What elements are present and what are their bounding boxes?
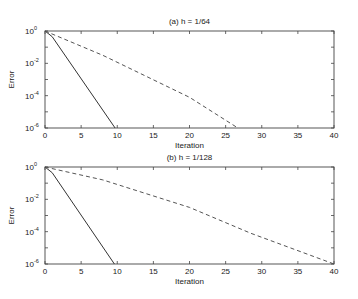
chart-panel-b: (b) h = 1/128051015202530354010010-210-4… xyxy=(7,153,339,286)
x-tick-label: 15 xyxy=(149,131,158,140)
y-tick-label: 100 xyxy=(25,161,37,172)
x-tick-label: 5 xyxy=(79,267,84,276)
y-axis-label: Error xyxy=(7,206,16,224)
y-tick-label: 10-4 xyxy=(25,226,39,237)
x-tick-label: 35 xyxy=(293,131,302,140)
series-line-dashed xyxy=(45,31,238,128)
y-tick-exponent: -4 xyxy=(34,90,39,96)
y-tick-label: 10-6 xyxy=(25,122,39,133)
x-tick-label: 10 xyxy=(113,267,122,276)
x-tick-label: 20 xyxy=(185,267,194,276)
figure: (a) h = 1/64051015202530354010010-210-41… xyxy=(0,0,358,299)
x-tick-label: 0 xyxy=(43,131,48,140)
x-tick-label: 5 xyxy=(79,131,84,140)
x-tick-label: 10 xyxy=(113,131,122,140)
x-tick-label: 25 xyxy=(221,131,230,140)
chart-title: (b) h = 1/128 xyxy=(167,153,213,162)
x-tick-label: 0 xyxy=(43,267,48,276)
y-tick-exponent: -2 xyxy=(34,193,39,199)
x-tick-label: 40 xyxy=(330,131,339,140)
plot-frame xyxy=(45,167,334,264)
y-tick-label: 10-2 xyxy=(25,193,39,204)
x-tick-label: 15 xyxy=(149,267,158,276)
y-tick-exponent: -6 xyxy=(34,122,39,128)
y-tick-label: 10-4 xyxy=(25,90,39,101)
x-tick-label: 40 xyxy=(330,267,339,276)
y-tick-exponent: -2 xyxy=(34,57,39,63)
chart-panel-a: (a) h = 1/64051015202530354010010-210-41… xyxy=(7,17,339,150)
y-tick-exponent: -4 xyxy=(34,226,39,232)
x-tick-label: 35 xyxy=(293,267,302,276)
y-tick-label: 10-6 xyxy=(25,258,39,269)
series-line-dashed xyxy=(45,167,334,264)
y-axis-label: Error xyxy=(7,70,16,88)
y-tick-exponent: 0 xyxy=(34,161,37,167)
x-tick-label: 30 xyxy=(257,131,266,140)
y-tick-label: 100 xyxy=(25,25,37,36)
y-tick-exponent: -6 xyxy=(34,258,39,264)
y-tick-exponent: 0 xyxy=(34,25,37,31)
x-axis-label: Iteration xyxy=(175,141,204,150)
chart-title: (a) h = 1/64 xyxy=(169,17,211,26)
x-tick-label: 30 xyxy=(257,267,266,276)
x-tick-label: 25 xyxy=(221,267,230,276)
x-tick-label: 20 xyxy=(185,131,194,140)
series-line-solid xyxy=(45,167,114,264)
plot-frame xyxy=(45,31,334,128)
y-tick-label: 10-2 xyxy=(25,57,39,68)
x-axis-label: Iteration xyxy=(175,277,204,286)
